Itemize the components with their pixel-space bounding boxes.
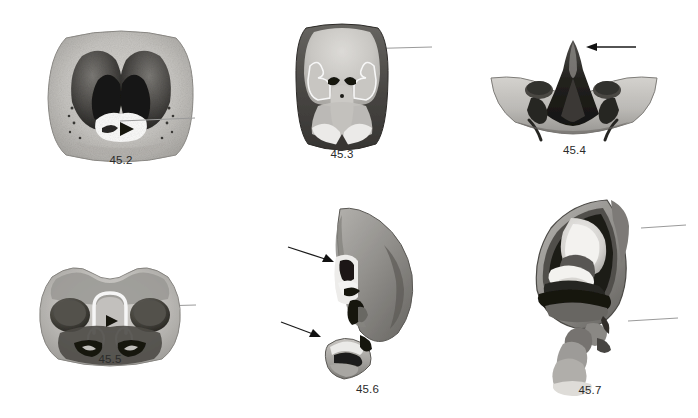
panel-45-3-label: 45.3: [288, 148, 396, 160]
pointer-45-2-median-cavity: [120, 118, 195, 121]
panel-45-6[interactable]: 45.6: [300, 205, 435, 405]
panel-45-4-label: 45.4: [487, 144, 662, 156]
panel-45-7-illustration: [515, 198, 665, 408]
panel-45-4-illustration: [487, 30, 662, 162]
panel-45-4[interactable]: 45.4: [487, 30, 662, 162]
panel-45-6-label: 45.6: [300, 383, 435, 395]
panel-45-6-illustration: [300, 205, 435, 405]
panel-45-3-illustration: [288, 18, 396, 168]
figure-plate: 45.2: [0, 0, 698, 418]
panel-45-3[interactable]: 45.3: [288, 18, 396, 168]
panel-45-5[interactable]: 45.5: [30, 255, 190, 385]
panel-45-7-label: 45.7: [515, 384, 665, 396]
panel-45-5-illustration: [30, 255, 190, 385]
panel-45-7[interactable]: 45.7: [515, 198, 665, 408]
panel-45-5-label: 45.5: [30, 353, 190, 365]
